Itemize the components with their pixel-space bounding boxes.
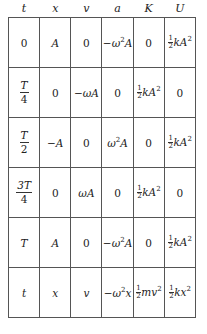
cell-x: A bbox=[40, 18, 71, 68]
denominator: 2 bbox=[21, 143, 28, 156]
fraction: T2 bbox=[20, 129, 29, 156]
amplitude: A bbox=[56, 137, 64, 149]
cell-v: ωA bbox=[71, 168, 102, 218]
numerator: T bbox=[20, 129, 29, 143]
omega: ω bbox=[112, 237, 121, 249]
omega: ω bbox=[78, 187, 87, 199]
value: t bbox=[22, 287, 26, 299]
exponent: 2 bbox=[156, 185, 160, 193]
numerator: T bbox=[20, 79, 29, 93]
cell-x: −A bbox=[40, 118, 71, 168]
cell-K: 0 bbox=[133, 218, 164, 268]
exponent: 2 bbox=[187, 35, 191, 43]
denominator: 4 bbox=[21, 193, 28, 206]
cell-v: −ωA bbox=[71, 68, 102, 118]
exponent: 2 bbox=[187, 135, 191, 143]
cell-U: 12kA2 bbox=[164, 18, 195, 68]
cell-v: 0 bbox=[71, 18, 102, 68]
value: 0 bbox=[114, 187, 121, 199]
exponent: 2 bbox=[187, 235, 191, 243]
omega: ω bbox=[112, 287, 121, 299]
cell-v: v bbox=[71, 268, 102, 318]
value: 0 bbox=[83, 137, 90, 149]
table-row: T4 0 −ωA 0 12kA2 0 bbox=[9, 68, 196, 118]
amplitude: A bbox=[125, 237, 133, 249]
amplitude: A bbox=[87, 187, 95, 199]
cell-a: −ω2x bbox=[102, 268, 133, 318]
value: T bbox=[21, 237, 28, 249]
table-row: 0 A 0 −ω2A 0 12kA2 bbox=[9, 18, 196, 68]
value: x bbox=[52, 287, 58, 299]
table-row: 3T4 0 ωA 0 12kA2 0 bbox=[9, 168, 196, 218]
value: 0 bbox=[177, 87, 184, 99]
cell-K: 12kA2 bbox=[133, 168, 164, 218]
omega: ω bbox=[112, 37, 121, 49]
value: 0 bbox=[145, 237, 152, 249]
value: 0 bbox=[177, 187, 184, 199]
header-v: v bbox=[71, 0, 102, 18]
value: 0 bbox=[145, 37, 152, 49]
value: 0 bbox=[83, 37, 90, 49]
value: 0 bbox=[114, 87, 121, 99]
cell-K: 0 bbox=[133, 118, 164, 168]
omega: ω bbox=[107, 137, 116, 149]
cell-K: 0 bbox=[133, 18, 164, 68]
cell-v: 0 bbox=[71, 218, 102, 268]
table-row: T A 0 −ω2A 0 12kA2 bbox=[9, 218, 196, 268]
header-row: t x v a K U bbox=[9, 0, 196, 18]
cell-t: T4 bbox=[9, 68, 40, 118]
amplitude: A bbox=[120, 137, 128, 149]
minus: − bbox=[74, 87, 83, 99]
header-U: U bbox=[164, 0, 195, 18]
mass: m bbox=[141, 286, 151, 298]
value: 0 bbox=[52, 187, 59, 199]
exponent: 2 bbox=[157, 285, 161, 293]
denominator: 4 bbox=[21, 93, 28, 106]
header-t: t bbox=[9, 0, 40, 18]
table-row: t x v −ω2x 12mv2 12kx2 bbox=[9, 268, 196, 318]
minus: − bbox=[103, 237, 112, 249]
cell-a: −ω2A bbox=[102, 218, 133, 268]
header-x: x bbox=[40, 0, 71, 18]
cell-t: 3T4 bbox=[9, 168, 40, 218]
exponent: 2 bbox=[187, 285, 191, 293]
table-row: T2 −A 0 ω2A 0 12kA2 bbox=[9, 118, 196, 168]
amplitude: A bbox=[125, 37, 133, 49]
cell-t: T bbox=[9, 218, 40, 268]
displacement: x bbox=[126, 287, 132, 299]
value: 0 bbox=[52, 87, 59, 99]
cell-t: t bbox=[9, 268, 40, 318]
cell-K: 12mv2 bbox=[133, 268, 164, 318]
cell-a: −ω2A bbox=[102, 18, 133, 68]
cell-K: 12kA2 bbox=[133, 68, 164, 118]
amplitude: A bbox=[91, 87, 99, 99]
cell-a: 0 bbox=[102, 68, 133, 118]
header-K: K bbox=[133, 0, 164, 18]
omega: ω bbox=[83, 87, 92, 99]
cell-U: 0 bbox=[164, 168, 195, 218]
value: 0 bbox=[83, 237, 90, 249]
header-a: a bbox=[102, 0, 133, 18]
cell-v: 0 bbox=[71, 118, 102, 168]
fraction: T4 bbox=[20, 79, 29, 106]
value: v bbox=[83, 287, 89, 299]
cell-U: 12kA2 bbox=[164, 118, 195, 168]
numerator: 3T bbox=[16, 179, 32, 193]
cell-t: 0 bbox=[9, 18, 40, 68]
value: A bbox=[51, 237, 59, 249]
cell-x: A bbox=[40, 218, 71, 268]
fraction: 3T4 bbox=[16, 179, 32, 206]
cell-a: 0 bbox=[102, 168, 133, 218]
cell-x: 0 bbox=[40, 68, 71, 118]
cell-U: 0 bbox=[164, 68, 195, 118]
minus: − bbox=[103, 37, 112, 49]
cell-t: T2 bbox=[9, 118, 40, 168]
value: 0 bbox=[21, 37, 28, 49]
value: 0 bbox=[145, 137, 152, 149]
cell-U: 12kA2 bbox=[164, 218, 195, 268]
value: A bbox=[51, 37, 59, 49]
cell-x: x bbox=[40, 268, 71, 318]
cell-x: 0 bbox=[40, 168, 71, 218]
oscillation-table: t x v a K U 0 A 0 −ω2A 0 12kA2 T4 0 −ωA … bbox=[8, 0, 196, 318]
cell-U: 12kx2 bbox=[164, 268, 195, 318]
